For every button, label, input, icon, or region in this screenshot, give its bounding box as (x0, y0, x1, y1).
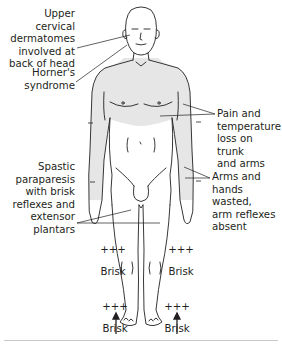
ankle-reflex-left: +++ Brisk (100, 290, 130, 345)
label-spastic-paraparesis: Spastic paraparesis with brisk reflexes … (2, 161, 75, 237)
ankle-reflex-right: +++ Brisk (162, 290, 192, 345)
sensory-loss-shading (89, 58, 194, 200)
label-pain-temperature-loss: Pain and temperature loss on trunk and a… (217, 108, 281, 171)
reflex-sign: +++ (100, 301, 130, 312)
bottom-divider (4, 340, 278, 341)
reflex-text: Brisk (100, 323, 130, 334)
label-upper-cervical: Upper cervical dermatomes involved at ba… (2, 8, 75, 71)
knee-reflex-left: +++ Brisk (98, 233, 128, 288)
reflex-sign: +++ (98, 244, 128, 255)
reflex-sign: +++ (162, 301, 192, 312)
reflex-text: Brisk (162, 323, 192, 334)
head-outline (126, 7, 157, 55)
reflex-text: Brisk (98, 266, 128, 277)
knee-reflex-right: +++ Brisk (166, 233, 196, 288)
reflex-text: Brisk (166, 266, 196, 277)
label-horners-syndrome: Horner's syndrome (2, 67, 75, 92)
reflex-sign: +++ (166, 244, 196, 255)
label-arms-wasted: Arms and hands wasted, arm reflexes abse… (212, 171, 282, 234)
